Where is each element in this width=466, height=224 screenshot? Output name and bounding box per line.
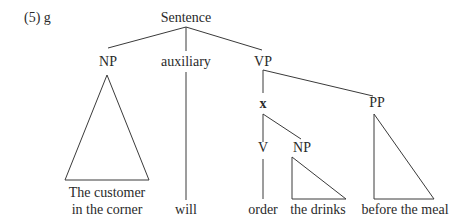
node-sentence: Sentence — [161, 10, 212, 25]
edge-vp-pp — [263, 70, 373, 96]
edge-x-np — [263, 114, 301, 139]
node-vp: VP — [254, 54, 272, 69]
leaf-order: order — [248, 202, 278, 217]
node-x: x — [260, 96, 267, 111]
node-pp: PP — [369, 95, 385, 110]
node-np-subject: NP — [99, 54, 117, 69]
leaf-will: will — [175, 202, 197, 217]
edge-sentence-vp — [186, 27, 262, 50]
triangle-pp — [374, 114, 434, 199]
leaf-subject-line1: The customer — [69, 185, 146, 200]
node-v: V — [258, 140, 268, 155]
syntax-tree-diagram: (5) g Sentence NP auxiliary VP The custo… — [0, 0, 466, 224]
node-np-object: NP — [293, 140, 311, 155]
example-label: (5) g — [24, 10, 51, 26]
triangle-np-object — [292, 157, 346, 199]
triangle-np-subject — [65, 75, 149, 180]
leaf-the-drinks: the drinks — [290, 202, 346, 217]
edge-sentence-np — [108, 27, 186, 48]
leaf-pp: before the meal — [361, 202, 448, 217]
node-auxiliary: auxiliary — [161, 54, 211, 69]
leaf-subject-line2: in the corner — [72, 202, 143, 217]
